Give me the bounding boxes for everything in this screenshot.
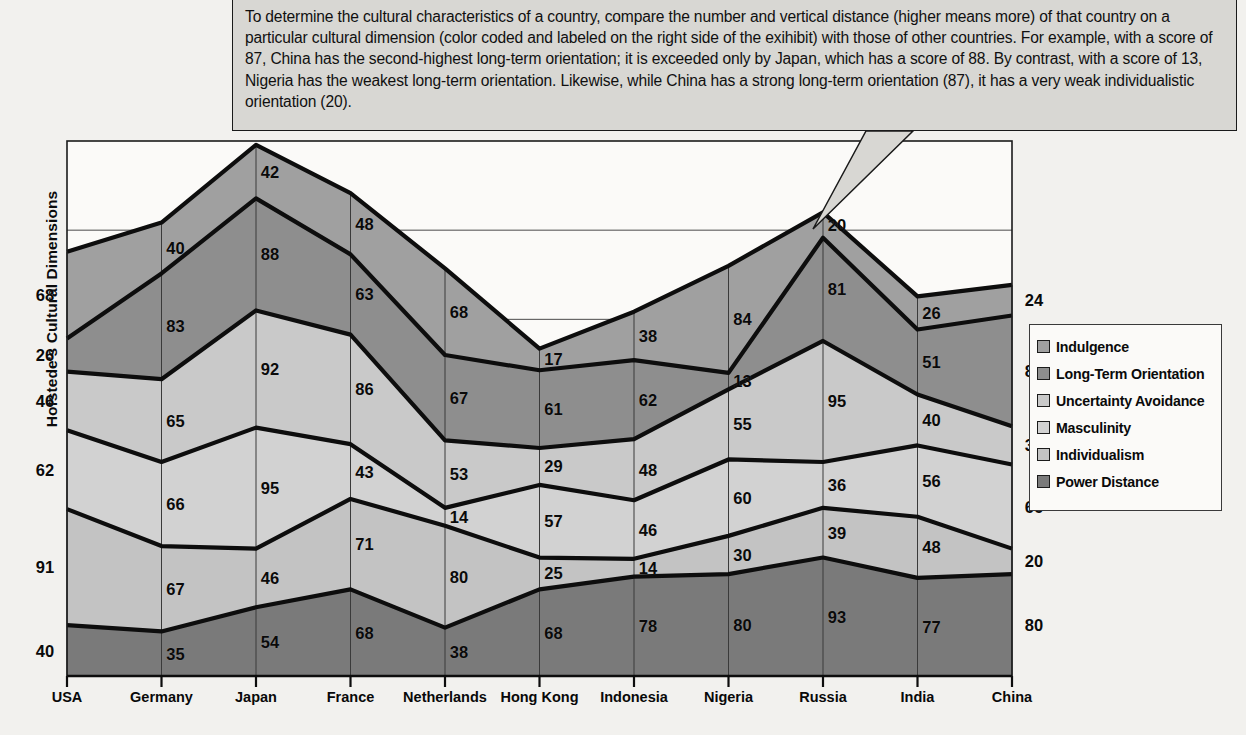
legend-swatch-icon: [1037, 340, 1050, 353]
chart-root: Hofstede's Cultural Dimensions USAGerman…: [0, 0, 1246, 735]
legend-item-label: Individualism: [1056, 447, 1144, 463]
legend-item-label: Long-Term Orientation: [1056, 366, 1204, 382]
chart-legend: IndulgenceLong-Term OrientationUncertain…: [1029, 324, 1222, 511]
legend-item-uncertainty-avoidance[interactable]: Uncertainty Avoidance: [1037, 387, 1221, 414]
legend-item-power-distance[interactable]: Power Distance: [1037, 468, 1221, 495]
legend-swatch-icon: [1037, 475, 1050, 488]
legend-item-label: Indulgence: [1056, 339, 1129, 355]
legend-swatch-icon: [1037, 367, 1050, 380]
legend-swatch-icon: [1037, 394, 1050, 407]
legend-item-label: Masculinity: [1056, 420, 1131, 436]
legend-item-masculinity[interactable]: Masculinity: [1037, 414, 1221, 441]
legend-item-label: Uncertainty Avoidance: [1056, 393, 1205, 409]
legend-item-individualism[interactable]: Individualism: [1037, 441, 1221, 468]
callout-pointer: [813, 131, 913, 229]
legend-item-long-term-orientation[interactable]: Long-Term Orientation: [1037, 360, 1221, 387]
callout-box: To determine the cultural characteristic…: [232, 0, 1237, 131]
callout-text: To determine the cultural characteristic…: [245, 6, 1224, 112]
legend-item-indulgence[interactable]: Indulgence: [1037, 333, 1221, 360]
legend-swatch-icon: [1037, 448, 1050, 461]
legend-swatch-icon: [1037, 421, 1050, 434]
legend-item-label: Power Distance: [1056, 474, 1159, 490]
